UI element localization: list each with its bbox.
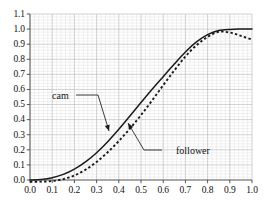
x-tick-label: 1.0: [240, 185, 264, 195]
x-tick-label: 0.9: [218, 185, 242, 195]
annotation-label-follower: follower: [176, 145, 210, 156]
y-tick-label: 0.8: [0, 54, 25, 64]
y-tick-label: 0.0: [0, 175, 25, 185]
chart-container: 1.11.00.90.80.70.60.50.40.30.20.10.0 0.0…: [0, 0, 267, 204]
x-tick-label: 0.8: [196, 185, 220, 195]
x-tick-label: 0.3: [85, 185, 109, 195]
y-tick-label: 0.1: [0, 160, 25, 170]
x-tick-label: 0.0: [18, 185, 42, 195]
y-tick-label: 0.3: [0, 130, 25, 140]
y-tick-label: 0.4: [0, 114, 25, 124]
x-tick-label: 0.6: [151, 185, 175, 195]
y-tick-label: 1.0: [0, 24, 25, 34]
plot-background: [0, 0, 267, 204]
y-tick-label: 1.1: [0, 9, 25, 19]
y-tick-label: 0.2: [0, 145, 25, 155]
y-tick-label: 0.9: [0, 39, 25, 49]
chart-plot-svg: [0, 0, 267, 204]
y-tick-label: 0.5: [0, 99, 25, 109]
x-tick-label: 0.2: [62, 185, 86, 195]
x-tick-label: 0.7: [173, 185, 197, 195]
x-tick-label: 0.1: [40, 185, 64, 195]
y-tick-label: 0.6: [0, 84, 25, 94]
x-tick-label: 0.4: [107, 185, 131, 195]
annotation-label-cam: cam: [52, 90, 69, 101]
x-tick-label: 0.5: [129, 185, 153, 195]
y-tick-label: 0.7: [0, 69, 25, 79]
